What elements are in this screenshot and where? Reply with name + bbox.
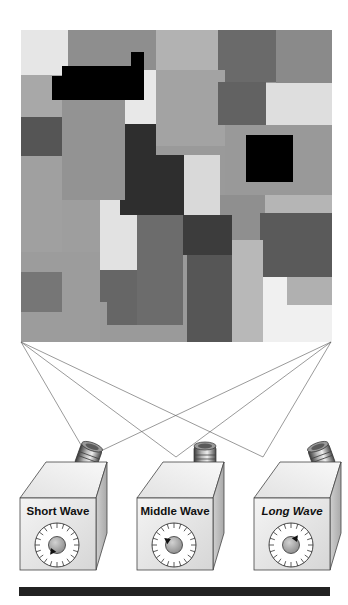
camera-label: Long Wave [261,505,323,517]
mondrian-patch [276,30,332,83]
sight-lines [21,342,331,457]
camera-middle-wave: Middle Wave [137,442,224,570]
camera-top-face [137,462,224,498]
mondrian-patch [156,70,225,146]
mondrian-patch [265,195,332,213]
mondrian-pattern [21,30,332,342]
mondrian-patch [120,215,137,270]
mondrian-patch [21,30,68,75]
mondrian-patch [21,156,62,252]
mondrian-black-patch [246,135,293,182]
sight-line [21,342,263,457]
mondrian-patch [156,155,184,215]
mondrian-patch [232,240,263,342]
dial-icon [35,523,79,567]
retinex-diagram: Short WaveMiddle WaveLong Wave [0,0,348,605]
mondrian-patch [62,200,100,252]
camera-top-face [254,462,341,498]
sight-line [88,342,331,457]
sight-line [176,342,331,457]
mondrian-patch [266,83,332,125]
mondrian-patch [218,82,266,125]
mondrian-patch [156,30,218,70]
dial-icon [152,523,196,567]
mondrian-patch [183,215,232,255]
mondrian-patch [100,200,120,270]
mondrian-patch [137,215,183,330]
mondrian-patch [62,100,125,200]
sight-line [21,342,176,457]
dial-icon [269,523,313,567]
camera-label: Short Wave [27,505,90,517]
mondrian-patch [187,255,232,342]
mondrian-patch [218,30,276,82]
mondrian-patch [260,213,332,277]
camera-label: Middle Wave [140,505,209,517]
bottom-bar [19,587,330,596]
sight-line [21,342,88,457]
mondrian-patch [21,272,62,312]
camera-long-wave: Long Wave [254,439,341,570]
mondrian-patch [287,277,332,305]
cameras: Short WaveMiddle WaveLong Wave [20,439,341,570]
camera-short-wave: Short Wave [20,439,107,570]
sight-line [263,342,331,457]
mondrian-patch [21,117,62,156]
mondrian-patch [100,270,137,302]
mondrian-patch [120,200,137,215]
mondrian-patch [107,302,137,325]
mondrian-patch [100,325,187,342]
mondrian-patch [184,155,220,215]
camera-top-face [20,462,107,498]
